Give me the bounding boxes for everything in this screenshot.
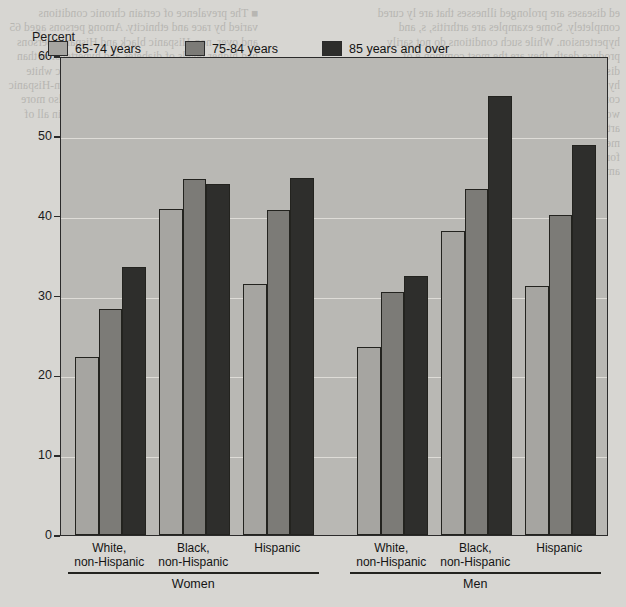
x-group-label-line2-5: non-Hispanic (425, 556, 525, 570)
bar-chart-figure: Percent 6050403020100 65-74 years75-84 y… (0, 0, 626, 607)
bar-group4-series3 (404, 276, 428, 535)
bar-group6-series3 (572, 145, 596, 535)
panel-label-men: Men (350, 577, 601, 591)
legend-item-3: 85 years and over (322, 41, 449, 56)
legend-label-1: 65-74 years (75, 42, 141, 56)
bar-group3-series2 (267, 210, 291, 535)
legend-label-3: 85 years and over (349, 42, 449, 56)
chart-legend: 65-74 years75-84 years85 years and over (48, 41, 449, 56)
legend-swatch-icon-3 (322, 41, 342, 56)
x-group-label-6: Hispanic (509, 542, 609, 556)
bar-group2-series2 (183, 179, 207, 535)
bar-group3-series3 (290, 178, 314, 535)
bar-group2-series3 (206, 184, 230, 535)
plot-area (60, 57, 608, 536)
legend-label-2: 75-84 years (212, 42, 278, 56)
legend-item-1: 65-74 years (48, 41, 141, 56)
bar-group1-series2 (99, 309, 123, 535)
bar-group6-series2 (549, 215, 573, 535)
legend-item-2: 75-84 years (185, 41, 278, 56)
bar-group1-series3 (122, 267, 146, 535)
bar-group4-series2 (381, 292, 405, 535)
gridline-50 (61, 138, 607, 139)
x-group-label-line1-6: Hispanic (509, 542, 609, 556)
bar-group5-series3 (488, 96, 512, 535)
panel-label-women: Women (68, 577, 319, 591)
gridline-40 (61, 218, 607, 219)
x-group-label-line2-2: non-Hispanic (143, 556, 243, 570)
y-tick-label-20: 20 (8, 368, 52, 382)
y-tick-label-60: 60 (8, 49, 52, 63)
y-tick-label-0: 0 (8, 528, 52, 542)
bar-group4-series1 (357, 347, 381, 535)
bar-group2-series1 (159, 209, 183, 535)
y-tick-label-40: 40 (8, 209, 52, 223)
bar-group6-series1 (525, 286, 549, 535)
legend-swatch-icon-1 (48, 41, 68, 56)
bar-group5-series2 (465, 189, 489, 535)
legend-swatch-icon-2 (185, 41, 205, 56)
y-tick-label-10: 10 (8, 448, 52, 462)
x-group-label-3: Hispanic (227, 542, 327, 556)
y-tick-label-50: 50 (8, 129, 52, 143)
bar-group3-series1 (243, 284, 267, 535)
panel-rule-women (68, 572, 319, 574)
panel-rule-men (350, 572, 601, 574)
bar-group5-series1 (441, 231, 465, 535)
bar-group1-series1 (75, 357, 99, 535)
x-group-label-line1-3: Hispanic (227, 542, 327, 556)
y-tick-label-30: 30 (8, 289, 52, 303)
